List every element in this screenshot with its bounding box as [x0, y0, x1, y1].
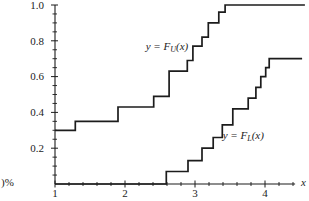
cdf-confidence-band-chart: x12340.20.40.60.81.0y = FU(x)y = FL(x): [0, 0, 309, 201]
y-tick-label: 0.6: [30, 70, 44, 82]
upper-cdf-bound-label: y = FU(x): [145, 40, 189, 54]
y-tick-label: 0.4: [30, 106, 44, 118]
x-tick-label: 2: [122, 187, 128, 199]
y-tick-label: 0.8: [30, 35, 44, 47]
cdf-band-figure: )% or bution x12340.20.40.60.81.0y = FU(…: [0, 0, 309, 201]
y-tick-label: 0.2: [30, 142, 44, 154]
x-tick-label: 3: [192, 187, 198, 199]
x-axis-label: x: [300, 176, 306, 188]
x-tick-label: 4: [262, 187, 268, 199]
chart-svg: x12340.20.40.60.81.0y = FU(x)y = FL(x): [0, 0, 309, 201]
x-tick-label: 1: [52, 187, 58, 199]
lower-cdf-bound-label: y = FL(x): [222, 129, 265, 143]
y-tick-label: 1.0: [30, 0, 44, 11]
